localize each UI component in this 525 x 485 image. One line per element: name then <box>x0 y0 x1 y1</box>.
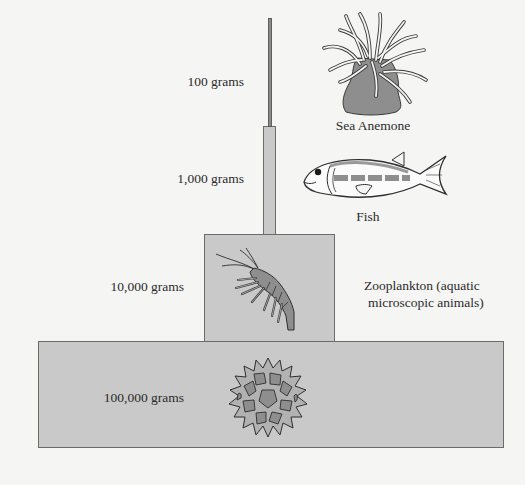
tier-100-grams <box>268 18 272 127</box>
organism-label-zooplankton: Zooplankton (aquatic microscopic animals… <box>364 277 484 311</box>
biomass-label-1000: 1,000 grams <box>150 170 244 187</box>
biomass-label-100000: 100,000 grams <box>84 389 184 406</box>
organism-label-zooplankton-line1: Zooplankton (aquatic <box>364 277 484 294</box>
biomass-label-10000: 10,000 grams <box>90 278 184 295</box>
fish-icon <box>300 150 452 202</box>
sea-anemone-icon <box>320 8 432 116</box>
biomass-label-100: 100 grams <box>150 73 244 90</box>
tier-1000-grams <box>263 126 276 235</box>
organism-label-zooplankton-line2: microscopic animals) <box>364 294 484 311</box>
organism-label-sea-anemone: Sea Anemone <box>323 117 423 134</box>
organism-label-fish: Fish <box>338 208 398 225</box>
shrimp-icon <box>212 246 308 334</box>
biomass-pyramid-diagram: 100 grams 1,000 grams 10,000 grams 100,0… <box>0 0 525 485</box>
phytoplankton-icon <box>226 357 310 439</box>
